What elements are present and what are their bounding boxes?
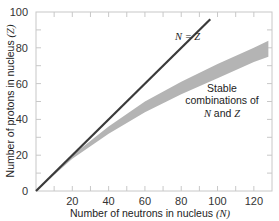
svg-text:100: 100	[10, 6, 28, 18]
svg-text:60: 60	[16, 78, 28, 90]
svg-text:120: 120	[245, 195, 263, 207]
svg-text:80: 80	[16, 42, 28, 54]
svg-text:20: 20	[16, 149, 28, 161]
svg-text:20: 20	[66, 195, 78, 207]
svg-text:0: 0	[22, 185, 28, 197]
n-equals-z-line	[36, 19, 210, 191]
svg-text:80: 80	[175, 195, 187, 207]
svg-text:100: 100	[208, 195, 226, 207]
svg-text:40: 40	[16, 113, 28, 125]
svg-text:60: 60	[139, 195, 151, 207]
svg-text:40: 40	[102, 195, 114, 207]
nz-annotation: N = Z	[174, 31, 200, 42]
svg-text:combinations of: combinations of	[185, 94, 259, 106]
svg-text:Stable: Stable	[207, 82, 237, 94]
svg-text:N and Z: N and Z	[203, 107, 240, 119]
chart: 20406080100120020406080100 Number of neu…	[0, 0, 279, 221]
y-axis-label: Number of protons in nucleus (Z)	[4, 24, 17, 177]
x-axis-label: Number of neutrons in nucleus (N)	[70, 207, 230, 220]
